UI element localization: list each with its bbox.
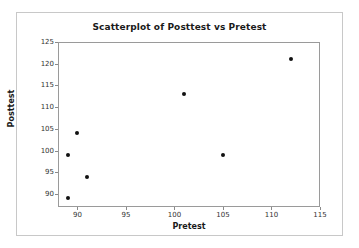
y-axis-tick-label: 95 — [45, 168, 54, 176]
page-title: Scatterplot of Posttest vs Pretest — [0, 22, 359, 32]
y-axis-tick-label: 90 — [45, 190, 54, 198]
x-axis-tick-mark — [77, 207, 78, 210]
data-point — [289, 57, 293, 61]
x-axis-tick-mark — [174, 207, 175, 210]
y-axis-title: Posttest — [7, 79, 16, 139]
data-point — [66, 153, 70, 157]
scatterplot-figure: Scatterplot of Posttest vs Pretest Postt… — [0, 0, 359, 248]
x-axis-tick-mark — [126, 207, 127, 210]
x-axis-tick-marks — [58, 207, 320, 210]
x-axis-tick-mark — [223, 207, 224, 210]
x-axis-title: Pretest — [58, 222, 320, 231]
y-axis-tick-label: 100 — [41, 147, 54, 155]
x-axis-tick-label: 115 — [313, 211, 326, 219]
x-axis-tick-label: 110 — [265, 211, 278, 219]
data-point — [221, 153, 225, 157]
x-axis-tick-label: 90 — [73, 211, 82, 219]
y-axis-tick-label: 110 — [41, 103, 54, 111]
x-axis-tick-mark — [320, 207, 321, 210]
x-axis-tick-labels: 9095100105110115 — [58, 211, 320, 221]
x-axis-tick-label: 95 — [121, 211, 130, 219]
data-point — [182, 92, 186, 96]
y-axis-tick-label: 115 — [41, 81, 54, 89]
y-axis-tick-labels: 9095100105110115120125 — [26, 42, 54, 207]
data-point — [75, 131, 79, 135]
x-axis-tick-label: 105 — [216, 211, 229, 219]
y-axis-tick-label: 105 — [41, 125, 54, 133]
x-axis-tick-label: 100 — [168, 211, 181, 219]
y-axis-tick-label: 120 — [41, 60, 54, 68]
x-axis-tick-mark — [271, 207, 272, 210]
data-point — [66, 196, 70, 200]
plot-data-area — [58, 42, 320, 207]
data-point — [85, 175, 89, 179]
y-axis-tick-label: 125 — [41, 38, 54, 46]
